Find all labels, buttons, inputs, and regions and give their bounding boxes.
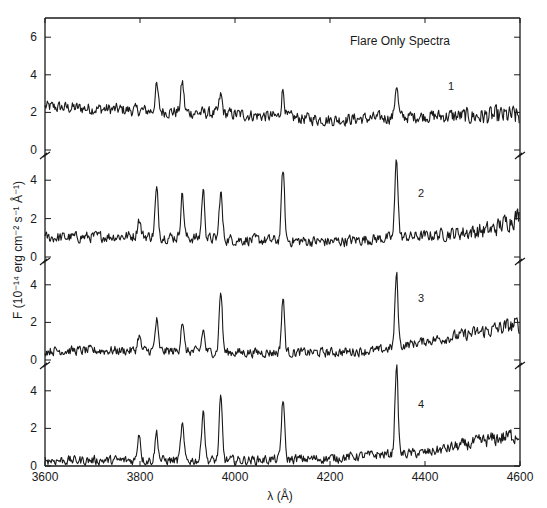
y-axis-label: F (10⁻¹⁴ erg cm⁻² s⁻¹ Å⁻¹) (10, 181, 25, 319)
panel-number-label: 3 (418, 292, 424, 304)
x-axis-label: λ (Å) (267, 488, 292, 503)
spectrum-line-2 (45, 160, 519, 247)
spectrum-panels: 02461024202430244 (30, 30, 520, 473)
y-tick-label: 6 (30, 30, 37, 44)
y-tick-label: 0 (30, 143, 37, 157)
y-tick-label: 2 (30, 105, 37, 119)
panel-number-label: 1 (448, 80, 454, 92)
x-tick-label: 4000 (222, 470, 249, 484)
spectrum-panel-4: 0244 (30, 365, 520, 473)
y-tick-label: 2 (30, 212, 37, 226)
y-tick-label: 4 (30, 278, 37, 292)
y-tick-label: 2 (30, 421, 37, 435)
spectrum-panel-2: 0242 (30, 160, 520, 264)
flare-spectra-chart: 02461024202430244 3600380040004200440046… (0, 0, 547, 508)
spectrum-panel-3: 0243 (30, 272, 520, 367)
panel-number-label: 4 (418, 398, 424, 410)
y-tick-label: 2 (30, 315, 37, 329)
y-tick-label: 4 (30, 384, 37, 398)
x-tick-label: 3600 (32, 470, 59, 484)
y-tick-label: 4 (30, 173, 37, 187)
y-tick-label: 0 (30, 250, 37, 264)
spectrum-line-4 (45, 365, 519, 466)
x-axis: 360038004000420044004600 (32, 18, 534, 484)
chart-title: Flare Only Spectra (350, 34, 450, 48)
x-tick-label: 4600 (507, 470, 534, 484)
y-tick-label: 0 (30, 353, 37, 367)
spectrum-panel-1: 02461 (30, 30, 520, 157)
x-tick-label: 3800 (127, 470, 154, 484)
panel-number-label: 2 (418, 187, 424, 199)
spectrum-line-3 (45, 272, 519, 358)
x-tick-label: 4400 (412, 470, 439, 484)
x-tick-label: 4200 (317, 470, 344, 484)
y-tick-label: 4 (30, 68, 37, 82)
